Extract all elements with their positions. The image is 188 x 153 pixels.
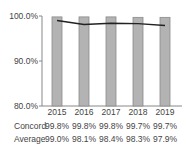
bar-concord [52,17,62,106]
bar-concord [106,17,116,106]
x-tick-label: 2016 [75,107,94,117]
concord-value: 99.7% [153,121,178,131]
bar-concord [79,17,89,106]
chart: 80.0%90.0%100.0% 201599.8%99.0%201699.8%… [0,0,188,153]
concord-value: 99.8% [99,121,124,131]
x-tick-label: 2019 [156,107,175,117]
x-tick-label: 2018 [129,107,148,117]
concord-value: 99.8% [72,121,97,131]
bars [52,17,170,106]
average-value: 98.1% [72,134,97,144]
labels: 201599.8%99.0%201699.8%98.1%201799.8%98.… [14,107,177,144]
x-tick-label: 2015 [48,107,67,117]
bar-concord [133,17,143,106]
y-tick-label: 80.0% [14,101,39,111]
average-value: 99.0% [45,134,70,144]
average-value: 98.3% [126,134,151,144]
axes: 80.0%90.0%100.0% [9,11,182,111]
average-value: 97.9% [153,134,178,144]
y-tick-label: 90.0% [14,56,39,66]
row-label-concord: Concord [14,121,46,131]
concord-value: 99.8% [45,121,70,131]
row-label-average: Average [14,134,46,144]
concord-value: 99.7% [126,121,151,131]
bar-concord [160,17,170,106]
y-tick-label: 100.0% [9,11,38,21]
average-value: 98.4% [99,134,124,144]
x-tick-label: 2017 [102,107,121,117]
